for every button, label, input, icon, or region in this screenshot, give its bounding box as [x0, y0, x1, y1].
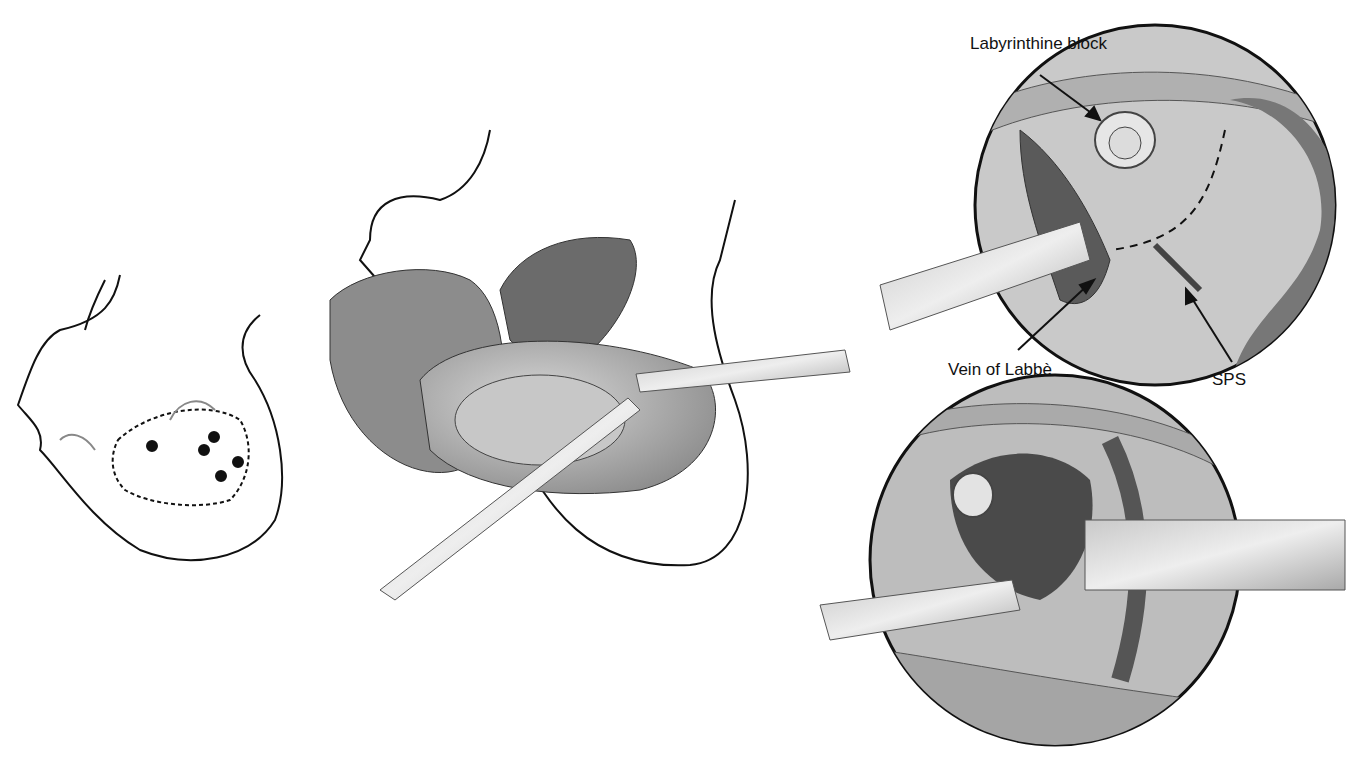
label-sps: SPS — [1212, 370, 1246, 390]
label-labyrinthine-block: Labyrinthine block — [970, 34, 1107, 54]
magnified-view-top — [880, 25, 1342, 400]
craniotomy-exposure-panel — [330, 130, 850, 600]
illustration-canvas — [0, 0, 1348, 764]
magnified-view-bottom — [820, 375, 1345, 760]
head-incision-panel — [18, 275, 282, 560]
label-vein-of-labbe: Vein of Labbè — [948, 360, 1052, 380]
